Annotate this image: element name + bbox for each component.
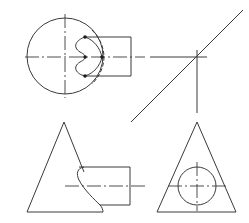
top-view — [25, 14, 145, 98]
intersection-curve-front — [77, 167, 103, 212]
side-view — [157, 122, 236, 212]
orthographic-drawing — [0, 0, 249, 223]
key-point-top — [83, 35, 87, 39]
front-view — [27, 122, 145, 212]
key-point-bottom — [83, 74, 87, 78]
cylinder-top-view-outline — [85, 37, 131, 76]
intersection-curve-outer — [85, 37, 102, 76]
construction-lines — [131, 10, 243, 122]
miter-line-45deg — [131, 10, 243, 122]
key-point-right — [100, 55, 104, 59]
key-point-middle — [83, 55, 87, 59]
